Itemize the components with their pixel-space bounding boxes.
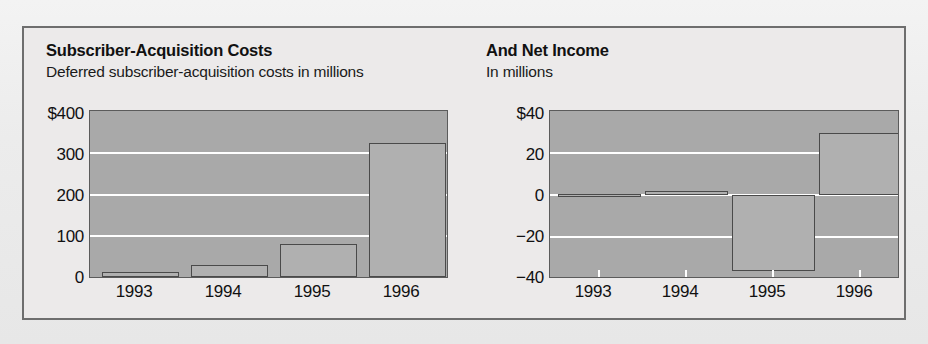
ytick-label-right-1: 20 [464,145,544,165]
chart-panel-net-income: And Net Income In millions $40 20 0 −20 … [464,28,904,318]
xtick-mark-right-1995 [772,270,774,277]
bar-left-1995 [280,244,357,277]
xtick-label-left-1994: 1994 [178,282,268,302]
xtick-label-left-1995: 1995 [267,282,357,302]
charts-row: Subscriber-Acquisition Costs Deferred su… [24,28,904,318]
xtick-mark-right-1993 [598,270,600,277]
chart-subtitle-left: Deferred subscriber-acquisition costs in… [46,63,364,81]
ytick-label-left-1: 300 [24,145,84,165]
xtick-label-right-1996: 1996 [810,282,898,302]
ytick-label-left-0: $400 [24,104,84,124]
xtick-label-right-1995: 1995 [723,282,811,302]
ytick-label-right-0: $40 [464,104,544,124]
chart-panel-subscriber-acquisition-costs: Subscriber-Acquisition Costs Deferred su… [24,28,464,318]
chart-subtitle-right: In millions [486,63,553,81]
xtick-mark-right-1996 [859,270,861,277]
xtick-label-right-1994: 1994 [636,282,724,302]
gridline-right-minus20 [550,236,898,238]
chart-title-right: And Net Income [486,41,609,60]
bar-right-1994 [645,191,728,195]
xtick-mark-right-1994 [685,270,687,277]
plot-area-right [549,110,899,278]
ytick-label-right-4: −40 [464,268,544,288]
ytick-label-right-2: 0 [464,186,544,206]
xtick-label-left-1993: 1993 [89,282,179,302]
xtick-label-right-1993: 1993 [549,282,637,302]
figure-frame: Subscriber-Acquisition Costs Deferred su… [22,26,906,320]
ytick-label-right-3: −20 [464,227,544,247]
bar-left-1994 [191,265,268,277]
ytick-label-left-2: 200 [24,186,84,206]
bar-left-1996 [369,143,446,277]
plot-area-left [89,110,448,278]
bar-right-1996 [819,133,899,195]
bar-right-1995 [732,195,815,271]
bar-right-1993 [558,194,641,197]
xtick-label-left-1996: 1996 [356,282,446,302]
ytick-label-left-3: 100 [24,227,84,247]
bar-left-1993 [102,272,179,277]
chart-title-left: Subscriber-Acquisition Costs [46,41,272,60]
ytick-label-left-4: 0 [24,268,84,288]
